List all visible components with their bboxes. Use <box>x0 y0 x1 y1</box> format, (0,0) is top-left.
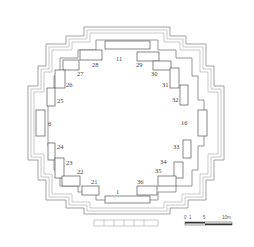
label-32: 32 <box>172 96 179 103</box>
label-26: 26 <box>66 81 73 88</box>
label-24: 24 <box>57 143 64 150</box>
label-29: 29 <box>136 61 143 68</box>
room-22 <box>62 176 80 186</box>
room-30 <box>153 61 171 70</box>
label-28: 28 <box>92 61 99 68</box>
room-labels: 11 28 29 27 30 26 31 25 32 6 16 24 33 23… <box>48 55 188 195</box>
room-24 <box>48 143 55 160</box>
scale-tick-0: 0 <box>184 215 187 220</box>
label-27: 27 <box>77 70 84 77</box>
room-21 <box>82 186 99 195</box>
room-32 <box>180 85 188 105</box>
room-33 <box>183 140 191 158</box>
label-34: 34 <box>160 158 167 165</box>
label-23: 23 <box>66 159 73 166</box>
label-11: 11 <box>116 55 122 62</box>
label-6: 6 <box>48 120 52 127</box>
room-36 <box>137 186 157 195</box>
room-34 <box>174 162 183 178</box>
room-28 <box>80 50 102 60</box>
room-25 <box>47 88 55 106</box>
floor-plan: 11 28 29 27 30 26 31 25 32 6 16 24 33 23… <box>0 0 254 247</box>
room-35 <box>158 176 176 186</box>
room-23 <box>55 158 64 178</box>
room-27 <box>63 60 79 70</box>
label-36: 36 <box>137 178 144 185</box>
label-30: 30 <box>151 70 158 77</box>
label-1: 1 <box>116 188 119 195</box>
scale-tick-5: 5 <box>203 215 206 220</box>
room-26 <box>55 70 65 88</box>
room-6 <box>36 110 45 136</box>
label-16: 16 <box>181 119 188 126</box>
label-22: 22 <box>77 168 84 175</box>
room-11 <box>105 41 150 49</box>
scale-tick-1: 1 <box>189 215 192 220</box>
label-25: 25 <box>57 97 64 104</box>
room-16 <box>198 110 207 136</box>
bottom-steps <box>94 220 158 226</box>
label-33: 33 <box>173 143 180 150</box>
room-1 <box>105 196 150 203</box>
label-21: 21 <box>91 178 98 185</box>
label-31: 31 <box>162 81 169 88</box>
scale-tick-10m: 10m <box>222 215 231 220</box>
room-31 <box>170 68 179 88</box>
room-29 <box>137 52 159 61</box>
outer-wall <box>28 27 224 214</box>
scale-bar: 0 1 5 10m <box>184 215 232 225</box>
label-35: 35 <box>155 167 162 174</box>
